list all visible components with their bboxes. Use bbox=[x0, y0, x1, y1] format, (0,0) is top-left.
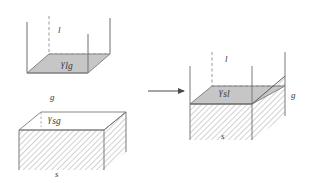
liquid-container-panel: l γlg bbox=[27, 16, 110, 73]
liquid-phase-label: l bbox=[58, 25, 61, 35]
combined-wetting-panel: l g s γsl bbox=[190, 52, 296, 141]
gamma-sl-subscript: sl bbox=[223, 89, 230, 99]
figure-canvas: l γlg g bbox=[0, 0, 310, 183]
combined-liquid-phase-label: l bbox=[225, 54, 228, 64]
gas-phase-label-left: g bbox=[50, 92, 55, 102]
solid-phase-label-left: s bbox=[55, 169, 59, 179]
gamma-lg-subscript: lg bbox=[65, 61, 73, 71]
gamma-sg-subscript: sg bbox=[52, 116, 61, 126]
combined-solid-phase-label: s bbox=[221, 131, 225, 141]
solid-substrate-panel: g s γsg bbox=[19, 92, 126, 179]
solid-front-face-hatch bbox=[19, 130, 104, 170]
wetting-diagram-figure: l γlg g bbox=[0, 0, 310, 183]
combined-gas-phase-label: g bbox=[291, 90, 296, 100]
